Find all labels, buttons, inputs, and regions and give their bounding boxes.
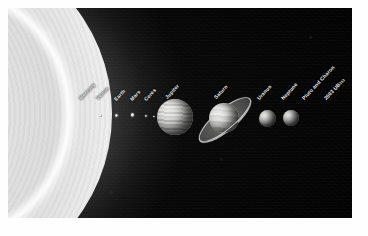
planet-venus [115,114,118,117]
planet-ceres [153,116,154,117]
planet-mercury [99,114,101,116]
planet-saturn-group [209,103,239,133]
planet-mars [145,115,147,117]
page-root: MercuryVenusEarthMarsCeresJupiterSaturnU… [0,0,368,236]
sun-rim-glow [8,8,120,218]
planet-jupiter [157,99,193,135]
solar-system-photo: MercuryVenusEarthMarsCeresJupiterSaturnU… [8,8,352,218]
sun-limb [8,8,112,218]
planet-earth [131,113,134,116]
planet-uranus [259,110,276,127]
planet-neptune [283,110,299,126]
